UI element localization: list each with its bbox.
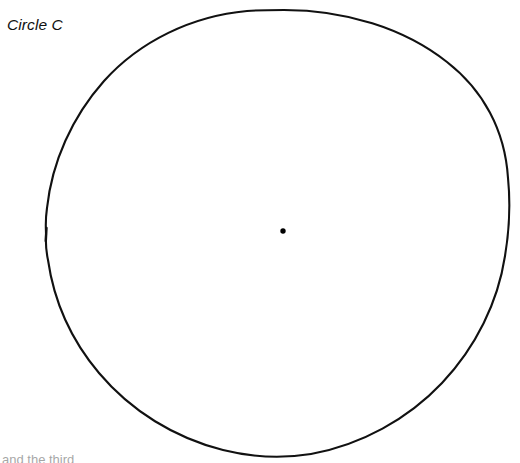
bottom-clipped-caption: and the third bbox=[2, 452, 74, 463]
figure-container: Circle C and the third bbox=[0, 0, 520, 463]
canvas-background bbox=[0, 0, 520, 463]
circle-c-left-kink bbox=[46, 228, 47, 241]
circle-label: Circle C bbox=[7, 15, 63, 34]
circle-diagram-canvas bbox=[0, 0, 520, 463]
circle-center-point bbox=[280, 228, 285, 233]
